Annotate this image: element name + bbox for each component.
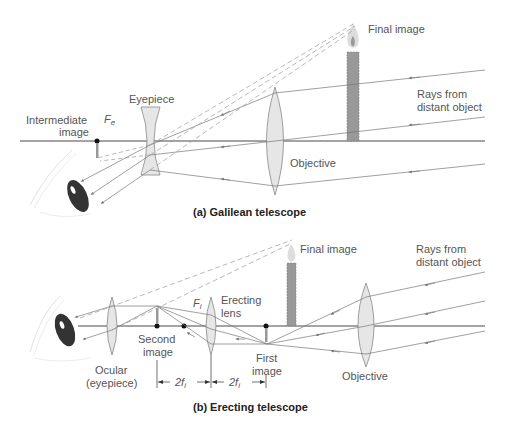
second-image-point: [155, 324, 160, 329]
focal-point-fe: [95, 139, 100, 144]
eye-icon-a: [30, 150, 93, 217]
label-rays-from-b: Rays from: [416, 243, 466, 255]
label-intermediate-a: Intermediate: [26, 114, 87, 126]
label-distant-object-b: distant object: [416, 256, 481, 268]
dim-subscript: i: [238, 381, 240, 390]
label-second-b: Second: [138, 333, 175, 345]
dim-letter: 2f: [229, 376, 238, 388]
second-image: [156, 308, 159, 324]
label-objective-a: Objective: [290, 157, 336, 169]
first-image: [265, 328, 268, 342]
caption-galilean: (a) Galilean telescope: [193, 206, 306, 218]
label-focal-fe: Fe: [104, 113, 115, 129]
label-first-image-b: image: [252, 365, 282, 377]
first-image-point: [264, 324, 269, 329]
label-lens-b: lens: [221, 307, 241, 319]
label-dim-left: 2fi: [175, 376, 186, 392]
label-focal-fi: Fi: [193, 297, 202, 313]
label-image-a: image: [59, 126, 89, 138]
caption-erecting: (b) Erecting telescope: [193, 401, 308, 413]
focal-subscript: e: [111, 118, 115, 127]
label-ocular-b: Ocular: [95, 364, 127, 376]
eye-icon-b: [30, 296, 90, 361]
label-final-image-b: Final image: [300, 243, 357, 255]
erecting-lens-b: [206, 297, 216, 355]
focal-letter: F: [193, 297, 200, 309]
label-second-image-b: image: [143, 346, 173, 358]
candle-final-image-a: [347, 24, 359, 141]
telescope-diagram: Final image Rays from distant object Eye…: [0, 0, 505, 427]
label-final-image-a: Final image: [368, 23, 425, 35]
label-eyepiece-paren-b: (eyepiece): [86, 377, 137, 389]
label-objective-b: Objective: [342, 370, 388, 382]
dim-letter: 2f: [175, 376, 184, 388]
focal-letter: F: [104, 113, 111, 125]
label-erecting-b: Erecting: [221, 294, 261, 306]
label-distant-object-a: distant object: [417, 101, 482, 113]
galilean-panel: [20, 23, 485, 217]
label-first-b: First: [256, 352, 277, 364]
candle-final-image-b: [287, 244, 296, 326]
label-dim-right: 2fi: [229, 376, 240, 392]
dim-subscript: i: [184, 381, 186, 390]
focal-subscript: i: [200, 302, 202, 311]
label-rays-from-a: Rays from: [417, 88, 467, 100]
intermediate-image-a: [96, 143, 99, 158]
label-eyepiece-a: Eyepiece: [129, 93, 174, 105]
